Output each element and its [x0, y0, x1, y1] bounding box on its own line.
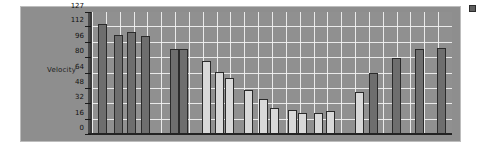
bar	[225, 78, 234, 134]
y-tick-mark	[85, 57, 91, 58]
bar	[98, 24, 107, 134]
legend-label	[469, 15, 483, 20]
y-tick-mark	[85, 42, 91, 43]
bar	[179, 49, 188, 134]
bar	[314, 113, 323, 134]
bar	[437, 48, 446, 134]
bar	[259, 99, 268, 134]
gridline-vertical	[189, 12, 190, 134]
gridline-vertical	[341, 12, 342, 134]
bar	[244, 90, 253, 134]
legend	[469, 5, 484, 23]
plot-area	[92, 12, 452, 134]
chart-screenshot: Velocity 1271129680644832160	[0, 0, 486, 148]
bar	[415, 49, 424, 134]
bar	[114, 35, 123, 134]
y-tick-mark	[85, 26, 91, 27]
gridline-vertical	[92, 12, 93, 134]
y-tick-label: 80	[62, 47, 84, 56]
bar	[355, 92, 364, 134]
y-tick-label: 32	[62, 93, 84, 102]
y-tick-label: 48	[62, 78, 84, 87]
x-axis-baseline	[88, 133, 452, 135]
y-tick-label: 127	[62, 2, 84, 11]
y-tick-mark	[85, 12, 91, 13]
bar	[392, 58, 401, 134]
bar	[288, 110, 297, 134]
y-tick-mark	[85, 103, 91, 104]
bar	[369, 73, 378, 134]
bar	[298, 113, 307, 134]
y-tick-mark	[85, 119, 91, 120]
gridline-vertical	[161, 12, 162, 134]
gridline-vertical	[286, 12, 287, 134]
y-tick-label: 0	[62, 124, 84, 133]
y-tick-label: 16	[62, 109, 84, 118]
gridline-vertical	[410, 12, 411, 134]
bar	[141, 36, 150, 134]
y-tick-label: 112	[62, 16, 84, 25]
gridline-vertical	[383, 12, 384, 134]
bar	[270, 108, 279, 134]
legend-swatch	[469, 5, 476, 12]
bar	[202, 61, 211, 134]
gridline-vertical	[424, 12, 425, 134]
bar	[170, 49, 179, 134]
bar	[326, 111, 335, 134]
bar	[215, 72, 224, 134]
y-tick-label: 64	[62, 63, 84, 72]
y-axis-tick-labels: 1271129680644832160	[62, 6, 84, 142]
y-tick-mark	[85, 73, 91, 74]
bar	[127, 32, 136, 134]
y-tick-mark	[85, 134, 91, 135]
y-tick-label: 96	[62, 32, 84, 41]
y-tick-mark	[85, 88, 91, 89]
